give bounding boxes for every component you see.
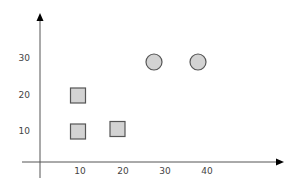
scatter-chart: 30 20 10 10 20 30 40: [0, 0, 297, 187]
x-axis-arrow-icon: [276, 159, 284, 166]
x-tick-label: 20: [117, 166, 129, 176]
square-marker: [71, 88, 86, 103]
y-axis-arrow-icon: [37, 13, 44, 21]
y-tick-label: 30: [19, 53, 31, 63]
circle-marker: [190, 54, 206, 70]
circle-marker: [146, 54, 162, 70]
x-tick-label: 40: [201, 166, 213, 176]
x-tick-label: 30: [159, 166, 171, 176]
square-marker: [71, 124, 86, 139]
y-tick-label: 10: [19, 126, 31, 136]
x-tick-label: 10: [74, 166, 86, 176]
square-marker: [110, 122, 125, 137]
y-tick-label: 20: [19, 90, 31, 100]
